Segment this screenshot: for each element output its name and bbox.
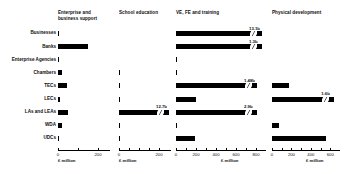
category-label-enterprise-agencies: Enterprise Agencies [12, 57, 56, 63]
x-axis-school-education: 0200£ million [119, 150, 171, 166]
panel-title-school-education: School education [119, 10, 169, 16]
axis-tick-minor [129, 148, 130, 150]
x-axis-ve-fe-and-training: 0200400600800£ million [176, 150, 266, 166]
bar-ve-fe-and-training-las-and-leas [176, 110, 257, 115]
axis-tick-minor [226, 148, 227, 150]
bar-enterprise-and-business-support-wda [58, 123, 62, 128]
bar-ve-fe-and-training-banks [176, 44, 262, 49]
axis-tick-label: 200 [156, 152, 163, 157]
bar-physical-development-tecs [272, 83, 289, 88]
category-label-businesses: Businesses [30, 30, 56, 36]
axis-tick [291, 148, 292, 151]
bar-enterprise-and-business-support-chambers [58, 70, 62, 75]
bar-ve-fe-and-training-tecs [176, 83, 257, 88]
bar-physical-development-udcs [272, 136, 326, 141]
axis-tick [159, 148, 160, 151]
bar-school-education-las-and-leas [119, 110, 169, 115]
category-label-las-and-leas: LAs and LEAs [25, 109, 56, 115]
axis-tick-minor [246, 148, 247, 150]
axis-tick-minor [282, 148, 283, 150]
bar-enterprise-and-business-support-udcs [58, 136, 59, 141]
bar-value-label: 1.3b [249, 39, 258, 44]
grouped-bar-chart: BusinessesBanksEnterprise AgenciesChambe… [0, 0, 346, 174]
panel-title-enterprise-and-business-support: Enterprise and business support [58, 10, 110, 21]
category-label-udcs: UDCs [43, 135, 56, 141]
axis-tick-label: 200 [95, 152, 102, 157]
panel-title-ve-fe-and-training: VE, FE and training [176, 10, 238, 16]
axis-tick-minor [149, 148, 150, 150]
x-axis-enterprise-and-business-support: 0200£ million [58, 150, 110, 166]
axis-tick-label: 0 [175, 152, 177, 157]
axis-unit-label: £ million [221, 158, 238, 163]
axis-tick-label: 0 [271, 152, 273, 157]
bar-ve-fe-and-training-udcs [176, 136, 195, 141]
plot-enterprise-and-business-support [58, 28, 110, 144]
axis-tick-minor [139, 148, 140, 150]
axis-tick [272, 148, 273, 151]
panel-title-physical-development: Physical development [272, 10, 338, 16]
bar-school-education-wda [119, 123, 120, 128]
axis-tick [236, 148, 237, 151]
bar-ve-fe-and-training-chambers [176, 70, 177, 75]
bar-enterprise-and-business-support-lecs [58, 97, 60, 102]
bar-value-label: 12.7b [156, 104, 167, 109]
bar-ve-fe-and-training-lecs [176, 97, 196, 102]
bar-ve-fe-and-training-enterprise-agencies [176, 57, 177, 62]
axis-unit-label: £ million [119, 158, 136, 163]
axis-tick-label: 400 [307, 152, 314, 157]
category-label-chambers: Chambers [34, 70, 56, 76]
axis-tick-label: 600 [327, 152, 334, 157]
bar-school-education-udcs [119, 136, 120, 141]
bar-value-label: 13.1b [249, 26, 260, 31]
bar-ve-fe-and-training-wda [176, 123, 177, 128]
axis-line [58, 150, 110, 151]
bar-school-education-tecs [119, 83, 120, 88]
bar-school-education-chambers [119, 70, 120, 75]
axis-line [119, 150, 171, 151]
axis-tick [98, 148, 99, 151]
axis-tick-label: 200 [193, 152, 200, 157]
bar-enterprise-and-business-support-tecs [58, 83, 67, 88]
axis-unit-label: £ million [306, 158, 323, 163]
category-label-wda: WDA [45, 122, 56, 128]
axis-tick-label: 600 [233, 152, 240, 157]
x-axis-physical-development: 0200400600£ million [272, 150, 340, 166]
bar-enterprise-and-business-support-businesses [58, 31, 59, 36]
axis-tick [176, 148, 177, 151]
axis-tick [119, 148, 120, 151]
axis-tick-minor [321, 148, 322, 150]
bar-enterprise-and-business-support-las-and-leas [58, 110, 68, 115]
axis-tick-label: 200 [288, 152, 295, 157]
bar-ve-fe-and-training-businesses [176, 31, 262, 36]
axis-tick [256, 148, 257, 151]
plot-ve-fe-and-training: 13.1b1.3b1.48b2.9b [176, 28, 266, 144]
axis-tick-minor [301, 148, 302, 150]
category-label-column: BusinessesBanksEnterprise AgenciesChambe… [0, 0, 56, 174]
plot-physical-development: 1.6b [272, 28, 340, 144]
axis-unit-label: £ million [58, 158, 75, 163]
axis-tick-label: 0 [57, 152, 59, 157]
axis-tick-label: 800 [253, 152, 260, 157]
bar-value-label: 2.9b [244, 104, 253, 109]
axis-tick [58, 148, 59, 151]
axis-tick [216, 148, 217, 151]
axis-tick [311, 148, 312, 151]
axis-tick [196, 148, 197, 151]
axis-tick-minor [78, 148, 79, 150]
bar-physical-development-lecs [272, 97, 334, 102]
bar-enterprise-and-business-support-banks [58, 44, 88, 49]
bar-enterprise-and-business-support-enterprise-agencies [58, 57, 59, 62]
category-label-lecs: LECs [44, 96, 56, 102]
bar-physical-development-wda [272, 123, 279, 128]
bar-school-education-lecs [119, 97, 120, 102]
category-label-banks: Banks [42, 44, 56, 50]
axis-tick [330, 148, 331, 151]
category-label-tecs: TECs [44, 83, 56, 89]
axis-tick-minor [206, 148, 207, 150]
bar-value-label: 1.6b [321, 91, 330, 96]
bar-value-label: 1.48b [244, 78, 255, 83]
axis-tick-label: 400 [213, 152, 220, 157]
axis-tick-label: 0 [118, 152, 120, 157]
axis-tick-minor [186, 148, 187, 150]
plot-school-education: 12.7b [119, 28, 171, 144]
